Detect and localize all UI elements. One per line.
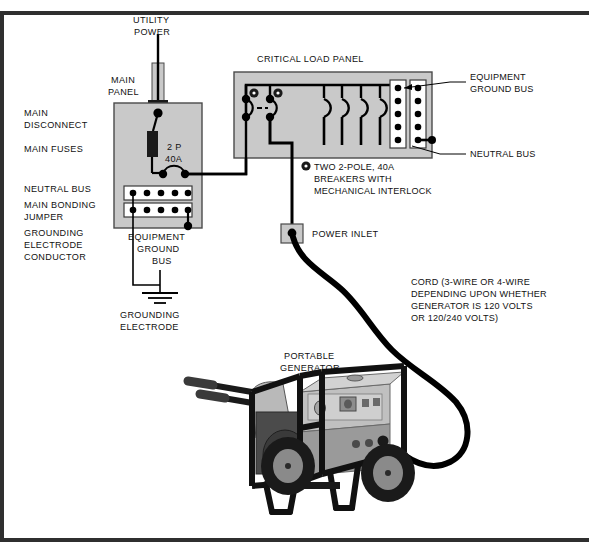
equipment-ground-bus-right-label-line1: EQUIPMENT xyxy=(470,72,526,82)
main-bonding-jumper-label-line2: JUMPER xyxy=(24,212,64,222)
neutral-bus-dot xyxy=(415,98,422,105)
portable-generator[interactable] xyxy=(188,366,415,512)
wiring-diagram-page: UTILITY POWER MAIN PANEL 2 P 40A xyxy=(0,0,589,553)
grounding-conductor-label-line2: ELECTRODE xyxy=(24,240,83,250)
main-fuses-label: MAIN FUSES xyxy=(24,144,83,154)
cord-note-line1: CORD (3-WIRE OR 4-WIRE xyxy=(411,277,530,287)
breaker-a-interlock-marker-dot xyxy=(252,91,255,94)
main-bonding-jumper-label-line1: MAIN BONDING xyxy=(24,200,96,210)
left-border-rule xyxy=(0,11,4,542)
critical-panel-neutral-bus[interactable] xyxy=(410,80,426,148)
main-disconnect-label-line2: DISCONNECT xyxy=(24,120,88,130)
bottom-border-rule xyxy=(0,538,589,542)
neutral-bus-dot xyxy=(158,190,165,197)
portable-generator-label-line1: PORTABLE xyxy=(284,351,334,361)
equipment-ground-bus-dot xyxy=(395,124,402,131)
neutral-bus-dot xyxy=(415,124,422,131)
main-disconnect-label-line1: MAIN xyxy=(24,108,48,118)
ground-bus-dot xyxy=(144,207,151,214)
neutral-bus-dot xyxy=(415,111,422,118)
main-panel-neutral-bus[interactable] xyxy=(124,186,192,200)
equipment-ground-bus-dot xyxy=(395,111,402,118)
grounding-electrode-label-line2: ELECTRODE xyxy=(120,322,179,332)
equipment-ground-bus-dot xyxy=(395,98,402,105)
generator-receptacle-b[interactable] xyxy=(365,439,373,447)
generator-receptacle-a[interactable] xyxy=(352,440,360,448)
cord-note-line2: DEPENDING UPON WHETHER xyxy=(411,289,547,299)
equipment-ground-bus-left-label-line2: GROUND xyxy=(137,244,180,254)
power-inlet-label: POWER INLET xyxy=(312,229,379,239)
interlock-note-line2: BREAKERS WITH xyxy=(314,174,392,184)
generator-handles xyxy=(188,381,258,404)
grounding-electrode-label-line1: GROUNDING xyxy=(120,310,180,320)
neutral-bus-dot xyxy=(172,190,179,197)
interlock-note-line1: TWO 2-POLE, 40A xyxy=(314,162,395,172)
equipment-ground-bus-left-label-line1: EQUIPMENT xyxy=(128,232,185,242)
breaker-rating-line1: 2 P xyxy=(167,142,182,152)
utility-power-label-line1: UTILITY xyxy=(133,15,169,25)
wiring-diagram-canvas: UTILITY POWER MAIN PANEL 2 P 40A xyxy=(0,0,589,553)
interlock-note: TWO 2-POLE, 40A BREAKERS WITH MECHANICAL… xyxy=(301,161,431,196)
main-panel-label-line2: PANEL xyxy=(108,87,139,97)
neutral-bus-dot xyxy=(185,190,192,197)
generator-switch-b[interactable] xyxy=(373,398,380,406)
interlock-note-line3: MECHANICAL INTERLOCK xyxy=(314,186,432,196)
utility-power-mast xyxy=(148,34,168,112)
ground-bus-dot xyxy=(158,207,165,214)
breaker-rating-line2: 40A xyxy=(165,154,183,164)
main-panel-label-line1: MAIN xyxy=(111,75,135,85)
top-border-rule xyxy=(0,11,589,15)
grounding-conductor-label-line1: GROUNDING xyxy=(24,228,84,238)
utility-power-label-line2: POWER xyxy=(134,27,170,37)
critical-load-panel-title: CRITICAL LOAD PANEL xyxy=(257,54,364,64)
main-panel-equipment-ground-bus[interactable] xyxy=(124,203,192,217)
generator-control-knob[interactable] xyxy=(344,400,352,409)
interlock-note-marker-dot xyxy=(304,164,307,167)
breaker-b-interlock-marker-dot xyxy=(276,91,279,94)
main-fuse-body xyxy=(147,131,158,157)
equipment-ground-bus-right-label-line2: GROUND BUS xyxy=(470,84,534,94)
generator-fuel-cap[interactable] xyxy=(347,375,363,381)
equipment-ground-bus-dot xyxy=(395,137,402,144)
neutral-bus-dot xyxy=(144,190,151,197)
ground-bus-dot xyxy=(172,207,179,214)
neutral-bus-right-label: NEUTRAL BUS xyxy=(470,149,536,159)
generator-switch-a[interactable] xyxy=(362,399,369,407)
cord-note-line4: OR 120/240 VOLTS) xyxy=(411,313,498,323)
equipment-ground-bus-left-label-line3: BUS xyxy=(152,256,172,266)
grounding-conductor-label-line3: CONDUCTOR xyxy=(24,252,86,262)
grounding-electrode-symbol xyxy=(142,293,178,303)
neutral-bus-left-label: NEUTRAL BUS xyxy=(24,184,91,194)
generator-axle-bracket xyxy=(296,482,340,489)
generator-wheel-front xyxy=(361,444,415,502)
critical-panel-equipment-ground-bus[interactable] xyxy=(390,80,406,148)
cord-note-line3: GENERATOR IS 120 VOLTS xyxy=(411,301,533,311)
equipment-ground-bus-dot xyxy=(395,85,402,92)
